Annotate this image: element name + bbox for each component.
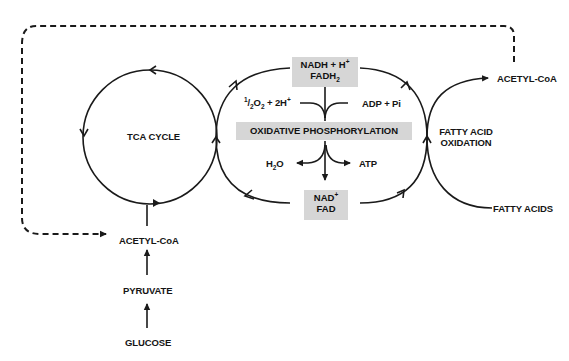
pathway-diagram	[0, 0, 569, 361]
fatty-acids-label: FATTY ACIDS	[493, 203, 553, 214]
oxygen-input-curve	[300, 103, 325, 118]
water-output-label: H2O	[266, 158, 284, 169]
nad-plus-sup: +	[334, 191, 338, 198]
water-o: O	[276, 158, 283, 169]
reduced-carriers-box: NADH + H+ FADH2	[292, 57, 358, 87]
acetyl-coa-top-label: ACETYL-CoA	[497, 73, 557, 84]
fatty-acid-oxidation-line1: FATTY ACID	[436, 126, 496, 137]
oxidative-phosphorylation-box: OXIDATIVE PHOSPHORYLATION	[236, 122, 412, 140]
fadh-text: FADH	[310, 70, 336, 81]
nadh-plus-sup: +	[346, 58, 350, 65]
fadh-sub: 2	[336, 76, 340, 83]
oval-arrow-upper-right-icon	[401, 82, 410, 90]
oxidative-phosphorylation-label: OXIDATIVE PHOSPHORYLATION	[250, 125, 398, 136]
oxidized-carriers-box: NAD+ FAD	[304, 190, 348, 220]
pyruvate-label: PYRUVATE	[123, 285, 173, 296]
fad-text: FAD	[304, 203, 348, 214]
oxygen-input-label: 1/2O2 + 2H+	[244, 97, 291, 108]
water-h: H	[266, 158, 273, 169]
nad-text: NAD	[314, 192, 335, 203]
fatty-acid-oxidation-label: FATTY ACID OXIDATION	[436, 126, 496, 148]
tca-arrow-bottom-icon	[153, 199, 160, 207]
fatty-acid-oxidation-line2: OXIDATION	[436, 137, 496, 148]
acetyl-coa-bottom-label: ACETYL-CoA	[119, 235, 179, 246]
oxygen-o: O	[254, 97, 261, 108]
adp-input-label: ADP + Pi	[362, 98, 401, 109]
glucose-label: GLUCOSE	[125, 337, 171, 348]
atp-output-label: ATP	[359, 158, 377, 169]
water-output-curve	[297, 145, 325, 163]
atp-output-curve	[326, 145, 350, 163]
oval-right-bottom-arc	[360, 137, 427, 203]
oxygen-sup2: +	[287, 96, 291, 103]
adp-input-curve	[325, 103, 348, 118]
oxygen-rest: + 2H	[264, 97, 286, 108]
nadh-text: NADH + H	[301, 59, 346, 70]
oval-left-bottom-arc	[216, 137, 290, 203]
tca-cycle-label: TCA CYCLE	[127, 131, 180, 142]
